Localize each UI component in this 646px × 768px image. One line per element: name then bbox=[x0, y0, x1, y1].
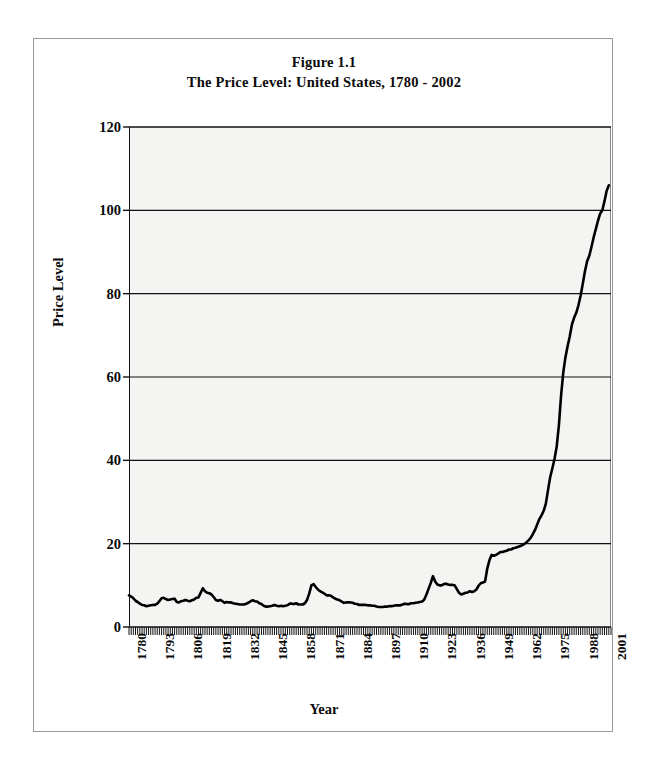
x-tick-label-1988: 1988 bbox=[586, 633, 602, 660]
figure-title-block: Figure 1.1 The Price Level: United State… bbox=[34, 53, 614, 92]
x-tick-label-1910: 1910 bbox=[416, 633, 432, 660]
x-tick-label-1975: 1975 bbox=[557, 633, 573, 660]
y-tick-label-60: 60 bbox=[107, 369, 122, 386]
x-tick-label-1858: 1858 bbox=[303, 633, 319, 660]
figure-frame: Figure 1.1 The Price Level: United State… bbox=[33, 38, 613, 732]
x-tick-label-1884: 1884 bbox=[360, 633, 376, 660]
x-tick-label-1923: 1923 bbox=[444, 633, 460, 660]
y-tick-label-40: 40 bbox=[107, 452, 122, 469]
x-tick-label-1819: 1819 bbox=[219, 633, 235, 660]
y-axis-tick-labels: 020406080100120 bbox=[77, 127, 121, 627]
y-tick-label-100: 100 bbox=[99, 202, 121, 219]
x-tick-label-1936: 1936 bbox=[473, 633, 489, 660]
x-tick-label-1845: 1845 bbox=[275, 633, 291, 660]
y-tick-label-0: 0 bbox=[114, 619, 121, 636]
x-tick-label-1871: 1871 bbox=[332, 633, 348, 660]
figure-title-line-1: Figure 1.1 bbox=[34, 53, 614, 73]
plot-wrapper: 020406080100120 178017931806181918321845… bbox=[129, 127, 611, 627]
figure-title-line-2: The Price Level: United States, 1780 - 2… bbox=[34, 73, 614, 93]
x-tick-label-1949: 1949 bbox=[501, 633, 517, 660]
chart-canvas bbox=[129, 127, 611, 627]
x-tick-label-1806: 1806 bbox=[190, 633, 206, 660]
y-axis-title: Price Level bbox=[50, 257, 67, 327]
gridlines bbox=[129, 127, 611, 544]
y-axis-tickmarks bbox=[123, 127, 129, 627]
x-tick-label-1962: 1962 bbox=[529, 633, 545, 660]
y-tick-label-120: 120 bbox=[99, 119, 121, 136]
x-tick-label-1832: 1832 bbox=[247, 633, 263, 660]
x-tick-label-2001: 2001 bbox=[614, 633, 630, 660]
x-tick-label-1780: 1780 bbox=[134, 633, 150, 660]
x-axis-tick-labels: 1780179318061819183218451858187118841897… bbox=[129, 633, 611, 693]
y-tick-label-80: 80 bbox=[107, 285, 122, 302]
x-axis-title: Year bbox=[34, 701, 614, 718]
x-tick-label-1897: 1897 bbox=[388, 633, 404, 660]
y-tick-label-20: 20 bbox=[107, 535, 122, 552]
x-tick-label-1793: 1793 bbox=[162, 633, 178, 660]
